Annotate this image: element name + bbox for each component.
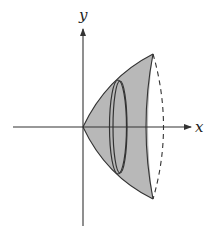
solid-of-revolution-diagram: x y — [0, 0, 215, 236]
x-axis-label: x — [195, 118, 204, 136]
y-axis-label: y — [78, 6, 88, 24]
